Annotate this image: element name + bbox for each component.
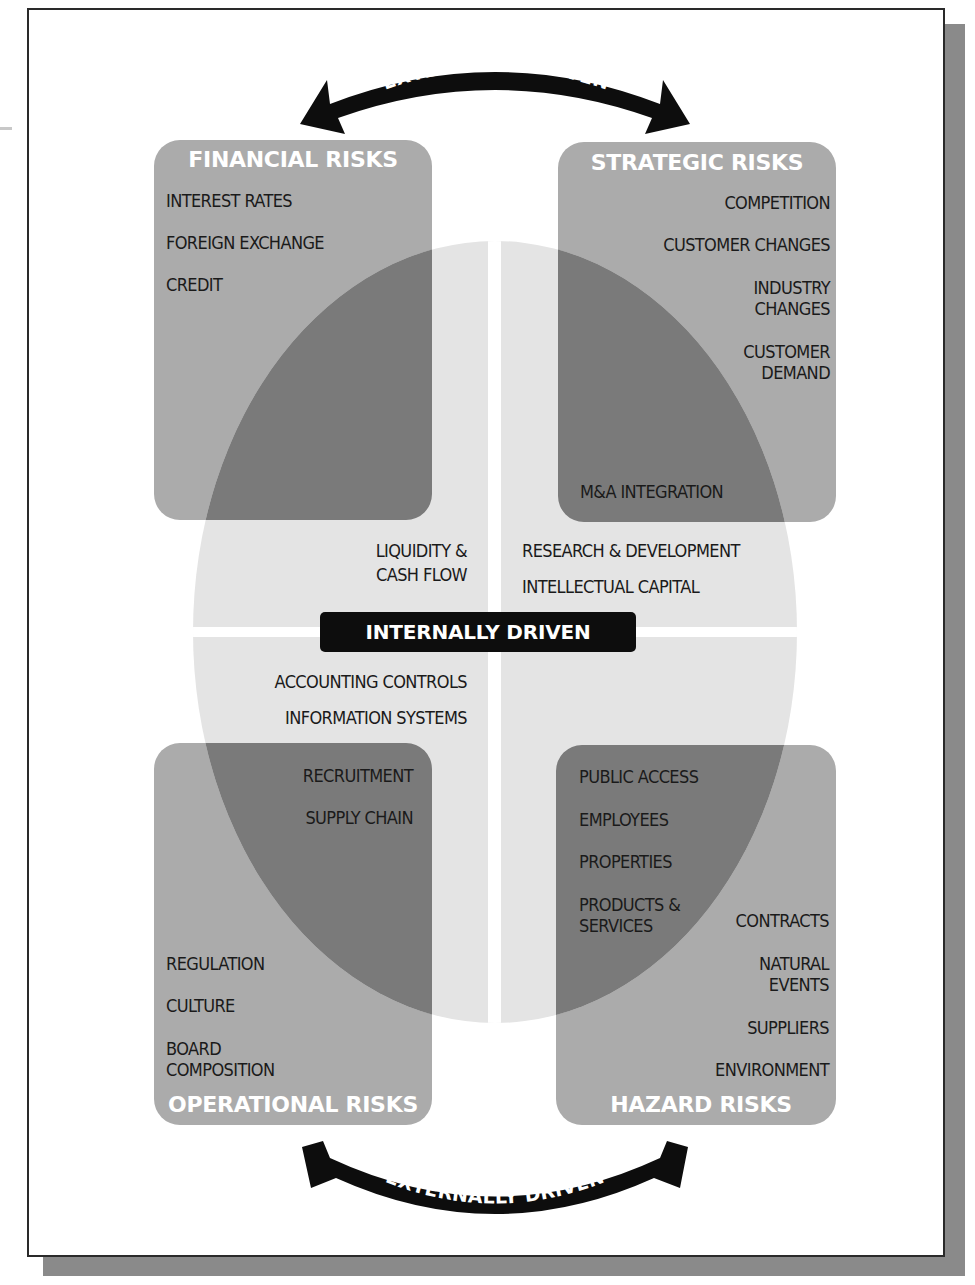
strategic-risks-title: STRATEGIC RISKS — [558, 150, 836, 175]
financial-item: CREDIT — [166, 274, 222, 295]
strategic-item: CUSTOMER — [743, 341, 830, 362]
top-externally-driven-arrow — [300, 72, 690, 134]
hazard-item: NATURAL — [759, 953, 829, 974]
operational-item: BOARD — [166, 1038, 221, 1059]
operational-item: REGULATION — [166, 953, 265, 974]
financial-internal-item: LIQUIDITY & — [376, 540, 467, 561]
risk-diagram: EXTERNALLY DRIVEN EXTERNALLY DRIVEN FINA… — [0, 0, 975, 1285]
hazard-risks-title: HAZARD RISKS — [556, 1092, 846, 1117]
internally-driven-badge: INTERNALLY DRIVEN — [320, 612, 636, 652]
hazard-item: CONTRACTS — [736, 910, 829, 931]
financial-item: FOREIGN EXCHANGE — [166, 232, 324, 253]
financial-item: INTEREST RATES — [166, 190, 292, 211]
hazard-item: PROPERTIES — [579, 851, 672, 872]
hazard-item: SERVICES — [579, 915, 653, 936]
strategic-item: INDUSTRY — [753, 277, 830, 298]
operational-internal-item: INFORMATION SYSTEMS — [285, 707, 467, 728]
strategic-item: CHANGES — [754, 298, 830, 319]
operational-internal-item: ACCOUNTING CONTROLS — [274, 671, 467, 692]
operational-item: RECRUITMENT — [303, 765, 413, 786]
operational-item: COMPOSITION — [166, 1059, 275, 1080]
hazard-item: EMPLOYEES — [579, 809, 668, 830]
strategic-item: DEMAND — [761, 362, 830, 383]
strategic-item: CUSTOMER CHANGES — [663, 234, 830, 255]
strategic-internal-item: INTELLECTUAL CAPITAL — [522, 576, 699, 597]
operational-item: SUPPLY CHAIN — [305, 807, 413, 828]
hazard-item: EVENTS — [769, 974, 829, 995]
hazard-item: PRODUCTS & — [579, 894, 680, 915]
financial-risks-title: FINANCIAL RISKS — [154, 147, 432, 172]
strategic-item: COMPETITION — [724, 192, 830, 213]
financial-internal-item: CASH FLOW — [376, 564, 467, 585]
hazard-item: SUPPLIERS — [747, 1017, 829, 1038]
hazard-item: PUBLIC ACCESS — [579, 766, 698, 787]
hazard-item: ENVIRONMENT — [715, 1059, 829, 1080]
strategic-item: M&A INTEGRATION — [580, 481, 723, 502]
operational-item: CULTURE — [166, 995, 235, 1016]
operational-risks-title: OPERATIONAL RISKS — [154, 1092, 432, 1117]
strategic-internal-item: RESEARCH & DEVELOPMENT — [522, 540, 740, 561]
